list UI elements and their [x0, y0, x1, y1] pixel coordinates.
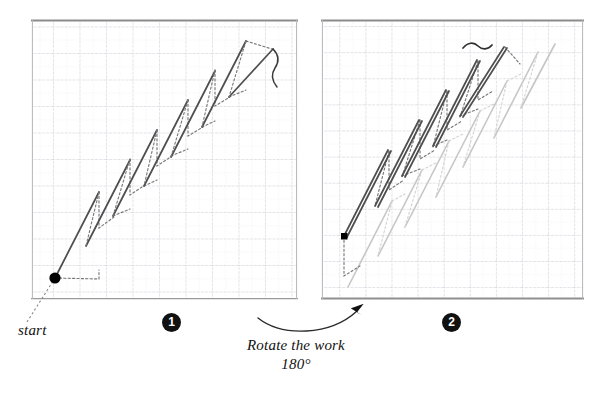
start-leader-line	[27, 278, 55, 322]
step-badge-1: 1	[162, 313, 181, 332]
start-dot-panel-1	[49, 272, 60, 283]
thread-tail-icon-2	[463, 43, 492, 49]
start-dot-panel-2	[341, 233, 348, 240]
panel-1-solid-stitches	[55, 41, 273, 278]
figure-stage: start Rotate the work 180° 1 2	[0, 0, 614, 406]
rotate-instruction: Rotate the work 180°	[247, 336, 345, 374]
panel-2-solid-stitches	[344, 47, 507, 237]
step-badge-2: 2	[442, 313, 461, 332]
rotate-arrow-icon	[258, 311, 357, 331]
panel-1-stitches	[27, 41, 278, 322]
start-label: start	[18, 322, 47, 339]
panel-2-previous-row	[348, 44, 555, 287]
rotate-instruction-line-2: 180°	[247, 355, 345, 374]
panel-2-stitches	[341, 43, 555, 287]
rotate-instruction-line-1: Rotate the work	[247, 337, 345, 353]
thread-tail-icon	[273, 49, 278, 87]
